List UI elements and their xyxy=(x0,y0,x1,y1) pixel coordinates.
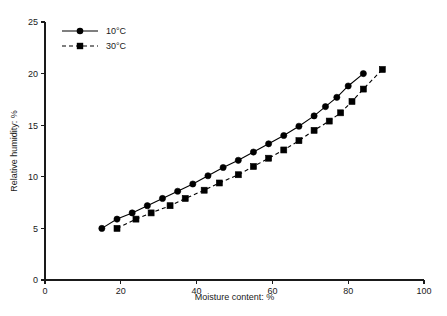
y-tick-label-0: 0 xyxy=(33,275,38,285)
data-point-marker xyxy=(266,141,272,147)
y-tick-label-15: 15 xyxy=(28,121,38,131)
chart-container: 0510152025020406080100 10°C30°C Moisture… xyxy=(0,0,447,316)
chart-axes: 0510152025020406080100 xyxy=(28,17,432,296)
data-point-marker xyxy=(114,225,120,231)
data-point-marker xyxy=(167,203,173,209)
data-point-marker xyxy=(235,157,241,163)
data-point-marker xyxy=(129,210,135,216)
data-point-marker xyxy=(360,71,366,77)
series-line-1 xyxy=(117,69,382,228)
data-point-marker xyxy=(205,173,211,179)
data-point-marker xyxy=(379,66,385,72)
y-tick-label-20: 20 xyxy=(28,69,38,79)
data-point-marker xyxy=(349,98,355,104)
chart-legend: 10°C30°C xyxy=(62,26,127,51)
data-point-marker xyxy=(281,132,287,138)
x-tick-label-80: 80 xyxy=(343,286,353,296)
x-tick-label-100: 100 xyxy=(416,286,431,296)
chart-series xyxy=(99,66,386,231)
data-point-marker xyxy=(296,138,302,144)
data-point-marker xyxy=(311,127,317,133)
data-point-marker xyxy=(201,187,207,193)
x-axis-title: Moisture content: % xyxy=(195,292,275,302)
data-point-marker xyxy=(322,104,328,110)
y-tick-label-25: 25 xyxy=(28,17,38,27)
y-axis-title: Relative humidity: % xyxy=(9,110,19,192)
series-line-0 xyxy=(102,74,364,229)
data-point-marker xyxy=(296,123,302,129)
data-point-marker xyxy=(235,172,241,178)
data-point-marker xyxy=(182,195,188,201)
data-point-marker xyxy=(250,163,256,169)
data-point-marker xyxy=(114,216,120,222)
data-point-marker xyxy=(334,94,340,100)
data-point-marker xyxy=(250,149,256,155)
data-point-marker xyxy=(281,147,287,153)
data-point-marker xyxy=(175,188,181,194)
legend-label-1: 30°C xyxy=(106,41,127,51)
legend-entry-10C: 10°C xyxy=(62,26,127,36)
data-point-marker xyxy=(144,203,150,209)
data-point-marker xyxy=(159,195,165,201)
x-tick-label-20: 20 xyxy=(116,286,126,296)
data-point-marker xyxy=(216,180,222,186)
chart-axis-titles: Moisture content: %Relative humidity: % xyxy=(9,110,274,302)
data-point-marker xyxy=(148,210,154,216)
relative-humidity-vs-moisture-chart: 0510152025020406080100 10°C30°C Moisture… xyxy=(0,0,447,316)
data-point-marker xyxy=(338,110,344,116)
data-point-marker xyxy=(99,225,105,231)
axis-frame xyxy=(45,22,424,280)
data-point-marker xyxy=(360,86,366,92)
y-tick-label-5: 5 xyxy=(33,224,38,234)
data-point-marker xyxy=(220,164,226,170)
data-point-marker xyxy=(345,83,351,89)
y-tick-label-10: 10 xyxy=(28,172,38,182)
data-point-marker xyxy=(266,155,272,161)
legend-label-0: 10°C xyxy=(106,26,127,36)
data-point-marker xyxy=(190,181,196,187)
legend-marker-square-icon xyxy=(77,43,83,49)
data-point-marker xyxy=(326,118,332,124)
series-30C xyxy=(114,66,385,231)
data-point-marker xyxy=(133,216,139,222)
x-tick-label-0: 0 xyxy=(42,286,47,296)
data-point-marker xyxy=(311,113,317,119)
legend-entry-30C: 30°C xyxy=(62,41,127,51)
legend-marker-circle-icon xyxy=(77,28,84,35)
series-10C xyxy=(99,71,367,232)
